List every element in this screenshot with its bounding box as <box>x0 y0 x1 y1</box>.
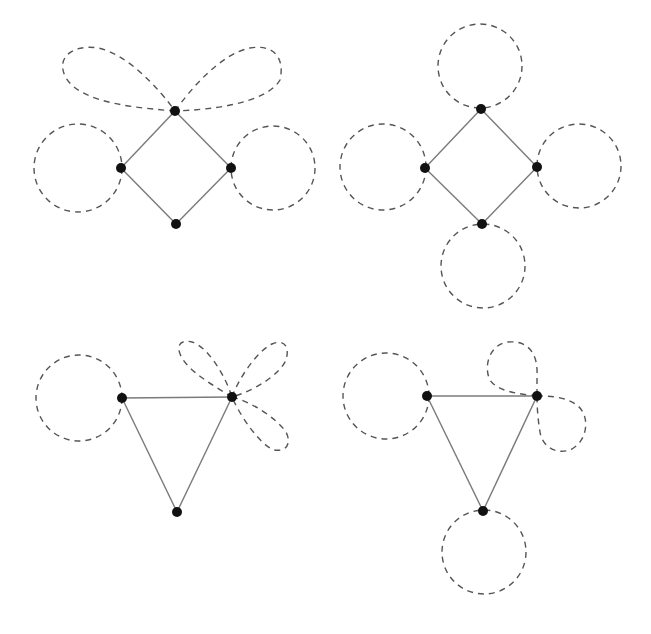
vertex-right <box>532 162 542 172</box>
loop-petal-top <box>63 47 175 111</box>
edge-top-right <box>175 111 231 168</box>
loop-petal-right <box>179 341 232 397</box>
graph-square-circles <box>340 24 621 308</box>
vertex-top <box>476 104 486 114</box>
vertex-top <box>170 106 180 116</box>
loop-petal-right <box>487 342 537 396</box>
graph-triangle-mixed <box>343 342 586 594</box>
edge-left-bottom <box>425 168 482 224</box>
vertex-bottom <box>477 219 487 229</box>
diagram-canvas <box>0 0 651 634</box>
loop-petal-right <box>232 342 287 397</box>
graph-square-petals <box>34 47 315 229</box>
edge-left-bottom <box>121 168 176 224</box>
vertex-right <box>227 392 237 402</box>
vertex-bottom <box>478 506 488 516</box>
edge-right-bottom <box>483 396 537 511</box>
vertex-bottom <box>171 219 181 229</box>
loop-circle-top <box>438 24 522 108</box>
edge-right-bottom <box>482 167 537 224</box>
vertex-left <box>420 163 430 173</box>
loop-circle-right <box>231 126 315 210</box>
loop-petal-top <box>175 47 281 111</box>
loop-petal-right <box>537 396 586 451</box>
edge-top-left <box>121 111 175 168</box>
edge-left-bottom <box>427 396 483 511</box>
graph-triangle-petals <box>36 341 288 517</box>
edge-left-right <box>122 397 232 398</box>
loop-circle-left <box>343 353 429 439</box>
vertex-left <box>422 391 432 401</box>
loop-circle-bottom <box>442 510 526 594</box>
edge-top-left <box>425 109 481 168</box>
edge-top-right <box>481 109 537 167</box>
vertex-bottom <box>172 507 182 517</box>
vertex-left <box>116 163 126 173</box>
loop-circle-right <box>537 124 621 208</box>
loop-circle-left <box>340 124 426 210</box>
loop-circle-left <box>34 124 122 212</box>
vertex-left <box>117 393 127 403</box>
edge-right-bottom <box>176 168 231 224</box>
vertex-right <box>532 391 542 401</box>
edge-left-bottom <box>122 398 177 512</box>
loop-circle-bottom <box>441 224 525 308</box>
vertex-right <box>226 163 236 173</box>
loop-circle-left <box>36 355 122 441</box>
edge-right-bottom <box>177 397 232 512</box>
loop-petal-right <box>232 397 288 450</box>
